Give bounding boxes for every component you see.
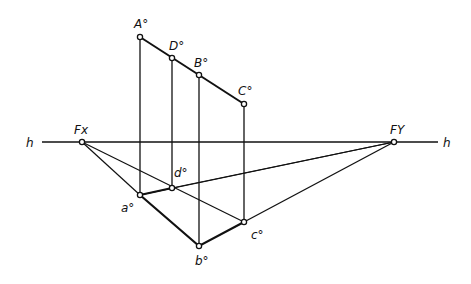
- point-D: [169, 55, 174, 60]
- point-d: [169, 185, 174, 190]
- label-c: c°: [251, 228, 264, 242]
- fx-to-a: [82, 142, 140, 195]
- point-C: [241, 101, 246, 106]
- label-h-right: h: [443, 136, 451, 150]
- label-Fy: FY: [390, 123, 406, 137]
- label-D: D°: [169, 39, 184, 53]
- upper-line: [140, 37, 244, 104]
- perspective-diagram: h h Fx FY A° D° B° C° a° d° b° c°: [0, 0, 471, 284]
- label-B: B°: [194, 56, 208, 70]
- point-c: [241, 219, 246, 224]
- point-Fx: [79, 139, 84, 144]
- fy-to-d: [172, 142, 394, 188]
- label-A: A°: [133, 17, 148, 31]
- label-Fx: Fx: [74, 123, 89, 137]
- point-a: [137, 192, 142, 197]
- fx-to-c: [82, 142, 244, 222]
- point-B: [196, 72, 201, 77]
- plan-outline-lower: [140, 195, 244, 246]
- label-a: a°: [121, 201, 134, 215]
- fy-to-c: [244, 142, 394, 222]
- point-b: [196, 243, 201, 248]
- point-Fy: [391, 139, 396, 144]
- plan-outline: [140, 188, 172, 195]
- label-d: d°: [174, 166, 188, 180]
- label-C: C°: [238, 84, 252, 98]
- label-b: b°: [195, 254, 209, 268]
- label-h-left: h: [26, 136, 34, 150]
- point-A: [137, 34, 142, 39]
